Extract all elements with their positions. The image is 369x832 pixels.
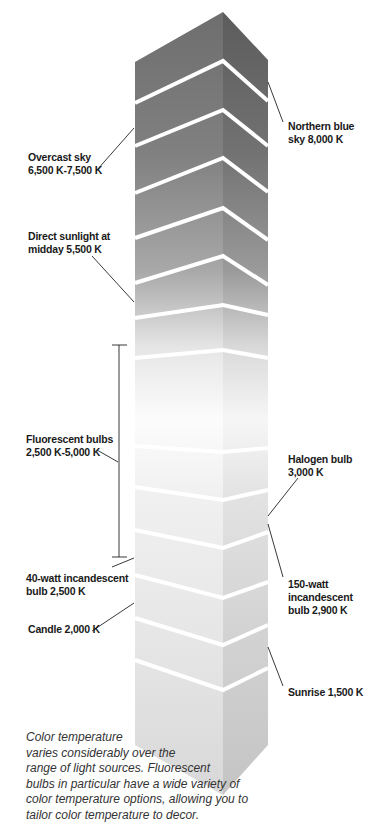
leader-overcast-sky bbox=[97, 128, 134, 170]
label-incandescent-150w: 150-watt incandescent bulb 2,900 K bbox=[288, 578, 353, 617]
leader-direct-sunlight bbox=[92, 256, 134, 302]
caption-line: tailor color temperature to decor. bbox=[26, 808, 356, 824]
label-halogen-bulb: Halogen bulb 3,000 K bbox=[288, 453, 352, 479]
caption-line: varies considerably over the bbox=[26, 746, 356, 762]
label-northern-blue-sky: Northern blue sky 8,000 K bbox=[288, 120, 354, 146]
figure-caption: Color temperature varies considerably ov… bbox=[26, 730, 356, 823]
caption-line: color temperature options, allowing you … bbox=[26, 792, 356, 808]
label-candle: Candle 2,000 K bbox=[28, 623, 100, 636]
leader-northern-blue-sky bbox=[268, 82, 283, 122]
label-sunrise: Sunrise 1,500 K bbox=[288, 686, 363, 699]
caption-line: range of light sources. Fluorescent bbox=[26, 761, 356, 777]
leader-incandescent-150w bbox=[268, 524, 283, 577]
label-fluorescent-bulbs: Fluorescent bulbs 2,500 K-5,000 K bbox=[26, 433, 113, 459]
label-overcast-sky: Overcast sky 6,500 K-7,500 K bbox=[28, 151, 102, 177]
leader-sunrise bbox=[268, 647, 283, 686]
label-direct-sunlight: Direct sunlight at midday 5,500 K bbox=[28, 230, 110, 256]
label-incandescent-40w: 40-watt incandescent bulb 2,500 K bbox=[26, 572, 128, 598]
caption-line: bulbs in particular have a wide variety … bbox=[26, 777, 356, 793]
leader-halogen-bulb bbox=[268, 478, 298, 516]
leader-incandescent-40w bbox=[112, 558, 134, 567]
caption-line: Color temperature bbox=[26, 730, 356, 746]
